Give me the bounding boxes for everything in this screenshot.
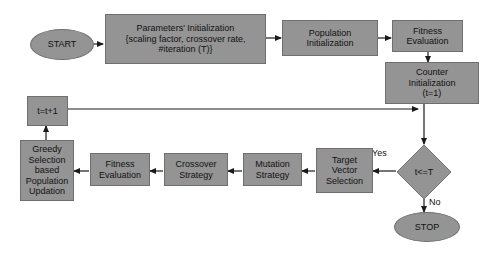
node-target-vector-selection-label: Target Vector Selection xyxy=(326,155,363,187)
node-target-vector-selection[interactable]: Target Vector Selection xyxy=(316,148,373,193)
edge-label-yes: Yes xyxy=(372,148,387,158)
node-mutation-strategy[interactable]: Mutation Strategy xyxy=(243,153,302,186)
node-crossover-strategy-label: Crossover Strategy xyxy=(175,159,216,180)
node-stop-label: STOP xyxy=(415,222,439,233)
node-counter-increment[interactable]: t=t+1 xyxy=(27,96,68,126)
node-start[interactable]: START xyxy=(30,29,94,60)
node-population-initialization[interactable]: Population Initialization xyxy=(282,20,378,56)
node-crossover-strategy[interactable]: Crossover Strategy xyxy=(164,153,228,186)
node-greedy-selection-label: Greedy Selection based Population Updati… xyxy=(26,144,69,197)
node-stop[interactable]: STOP xyxy=(394,212,460,242)
node-mutation-strategy-label: Mutation Strategy xyxy=(255,159,290,180)
node-fitness-evaluation-bottom[interactable]: Fitness Evaluation xyxy=(90,153,150,186)
flowchart-canvas: START Parameters' Initialization {scalin… xyxy=(0,0,482,255)
node-fitness-evaluation-top[interactable]: Fitness Evaluation xyxy=(392,20,463,52)
node-counter-increment-label: t=t+1 xyxy=(37,106,58,117)
node-fitness-evaluation-top-label: Fitness Evaluation xyxy=(406,26,448,47)
node-counter-initialization-label: Counter Initialization (t=1) xyxy=(408,67,455,99)
node-decision-t-le-T[interactable]: t<=T xyxy=(396,144,452,200)
node-fitness-evaluation-bottom-label: Fitness Evaluation xyxy=(99,159,141,180)
node-decision-label: t<=T xyxy=(415,167,434,177)
edge-label-no: No xyxy=(429,197,441,207)
node-parameters-initialization-label: Parameters' Initialization {scaling fact… xyxy=(125,23,245,55)
node-population-initialization-label: Population Initialization xyxy=(306,28,353,49)
node-greedy-selection-population-updation[interactable]: Greedy Selection based Population Updati… xyxy=(20,140,74,201)
node-parameters-initialization[interactable]: Parameters' Initialization {scaling fact… xyxy=(105,14,266,64)
node-counter-initialization[interactable]: Counter Initialization (t=1) xyxy=(385,62,479,104)
node-start-label: START xyxy=(48,39,77,50)
